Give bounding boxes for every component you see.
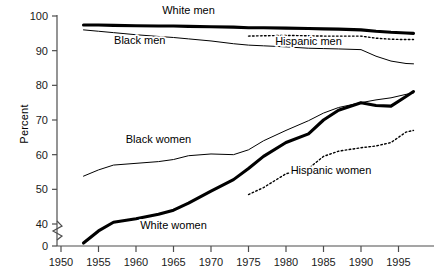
- x-tick-label: 1960: [124, 256, 148, 268]
- x-tick-label: 1980: [274, 256, 298, 268]
- x-tick-label: 1985: [311, 256, 335, 268]
- x-tick-label: 1990: [349, 256, 373, 268]
- y-tick-label: 0: [42, 240, 48, 252]
- y-axis-ticks: 0405060708090100: [30, 10, 57, 252]
- y-tick-label: 60: [36, 149, 48, 161]
- y-tick-label: 50: [36, 183, 48, 195]
- x-tick-label: 1950: [49, 256, 73, 268]
- x-tick-label: 1970: [199, 256, 223, 268]
- x-tick-label: 1995: [386, 256, 410, 268]
- series-label: Hispanic women: [291, 164, 372, 176]
- y-tick-label: 90: [36, 45, 48, 57]
- x-tick-label: 1955: [86, 256, 110, 268]
- y-tick-label: 80: [36, 79, 48, 91]
- series-label: Black men: [114, 34, 165, 46]
- series-label: White women: [140, 219, 207, 231]
- y-tick-label: 100: [30, 10, 48, 22]
- x-tick-label: 1965: [161, 256, 185, 268]
- series-line: [84, 25, 414, 33]
- y-tick-label: 40: [36, 218, 48, 230]
- series-label: Hispanic men: [275, 35, 342, 47]
- y-tick-label: 70: [36, 114, 48, 126]
- axes: [57, 15, 434, 246]
- series-line: [249, 130, 414, 194]
- series-label: White men: [162, 4, 215, 16]
- x-tick-label: 1975: [236, 256, 260, 268]
- chart-plot-area: 0405060708090100195019551960196519701975…: [0, 0, 441, 277]
- x-axis-ticks: 1950195519601965197019751980198519901995: [49, 246, 411, 268]
- series-label: Black women: [126, 133, 191, 145]
- y-axis-title: Percent: [18, 84, 30, 164]
- employment-rate-line-chart: 0405060708090100195019551960196519701975…: [0, 0, 441, 277]
